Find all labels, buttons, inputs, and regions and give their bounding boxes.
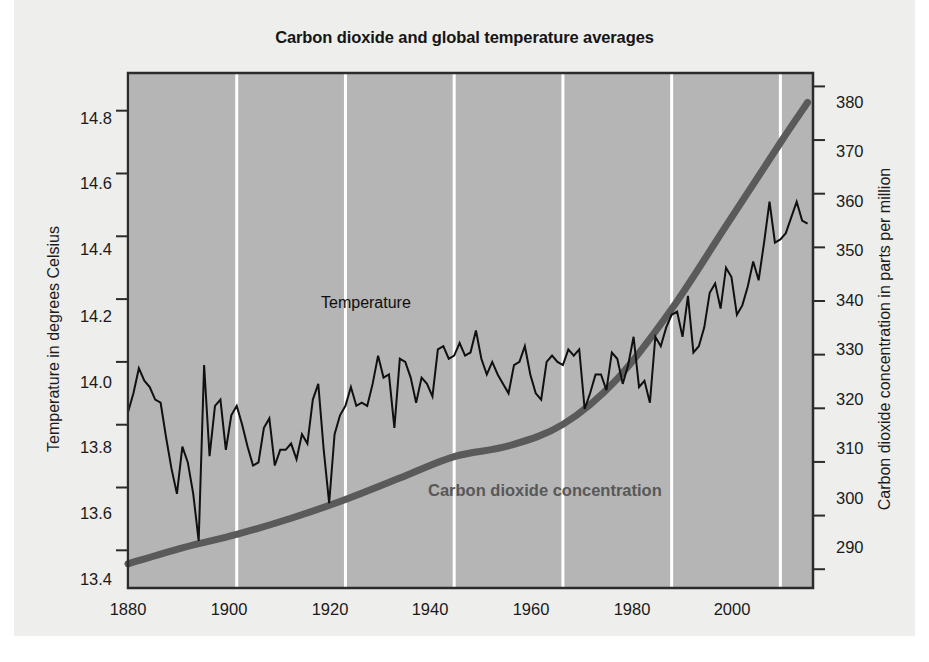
series-label-co2: Carbon dioxide concentration (428, 481, 662, 500)
chart-figure: Carbon dioxide and global temperature av… (0, 0, 929, 662)
plot-canvas (0, 0, 929, 662)
series-label-temperature: Temperature (321, 294, 411, 312)
plot-background (128, 73, 813, 588)
